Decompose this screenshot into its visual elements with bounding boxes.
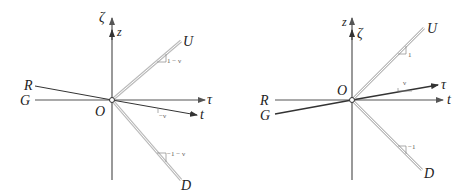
tau-slope-label: ν: [403, 79, 406, 87]
d-label: D: [180, 178, 191, 193]
left-panel: ζ z U R G O τ t D 1 − ν −ν −1 − ν: [20, 10, 213, 193]
t-slope-label: −ν: [159, 112, 166, 120]
r-label: R: [259, 93, 269, 108]
u-slope-label: 1: [408, 51, 412, 59]
origin-point: [350, 98, 355, 103]
tau-label: τ: [441, 77, 447, 92]
r-label: R: [23, 78, 33, 93]
d-characteristic-inner: [112, 100, 181, 180]
u-label: U: [183, 34, 194, 49]
u-characteristic-inner: [112, 41, 181, 100]
u-label: U: [427, 21, 438, 36]
right-panel: z ζ U R G O τ t D 1 ν −1: [259, 15, 452, 181]
tau-label: τ: [207, 92, 213, 107]
t-label: t: [200, 107, 205, 122]
g-line: [275, 100, 352, 114]
u-slope-label: 1 − ν: [167, 57, 181, 65]
characteristics-diagram: ζ z U R G O τ t D 1 − ν −ν −1 − ν: [0, 0, 465, 195]
origin-label: O: [337, 83, 347, 98]
t-label: t: [447, 92, 452, 107]
origin-point: [110, 98, 115, 103]
d-characteristic-inner: [352, 100, 422, 170]
g-label: G: [260, 108, 270, 123]
r-line: [35, 86, 112, 100]
z-label: z: [116, 25, 122, 39]
d-slope-label: −1: [408, 143, 416, 151]
d-label: D: [423, 166, 434, 181]
zeta-label: ζ: [99, 10, 106, 25]
zeta-label: ζ: [357, 26, 364, 41]
origin-label: O: [95, 104, 105, 119]
z-label: z: [341, 15, 347, 29]
g-label: G: [20, 93, 30, 108]
d-slope-label: −1 − ν: [167, 150, 185, 158]
